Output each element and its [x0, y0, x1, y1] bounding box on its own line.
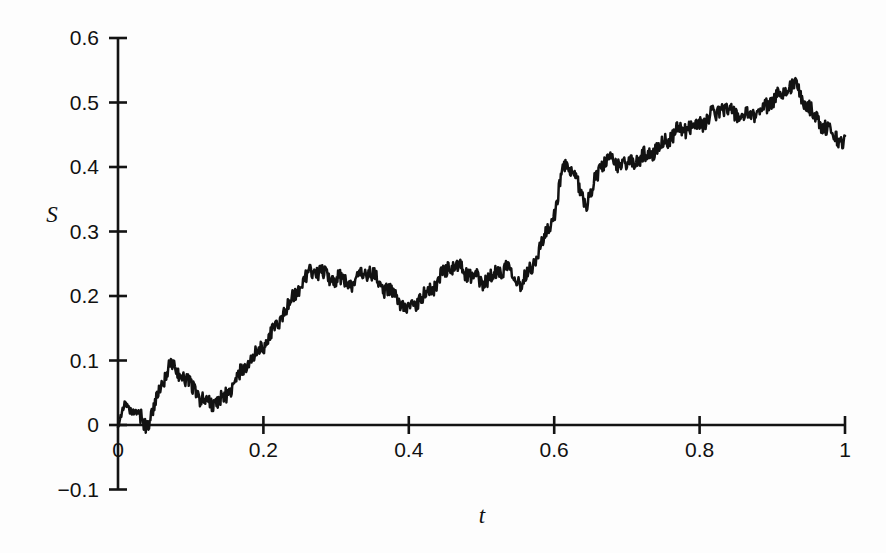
random-walk-chart: −0.100.10.20.30.40.50.6 00.20.40.60.81 S…: [0, 0, 886, 553]
x-tick-label: 0.8: [685, 438, 714, 461]
y-tick-label: 0: [87, 413, 99, 436]
data-series-group: [118, 78, 845, 433]
figure-container: −0.100.10.20.30.40.50.6 00.20.40.60.81 S…: [0, 0, 886, 553]
data-line-s: [118, 78, 845, 433]
x-axis: 00.20.40.60.81: [112, 416, 851, 461]
y-tick-label: 0.5: [70, 91, 99, 114]
y-axis: −0.100.10.20.30.40.50.6: [58, 26, 127, 501]
y-tick-label: 0.6: [70, 26, 99, 49]
y-tick-label: −0.1: [58, 478, 99, 501]
y-tick-label: 0.2: [70, 284, 99, 307]
x-tick-label: 0.6: [540, 438, 569, 461]
x-tick-label: 0.4: [394, 438, 424, 461]
y-axis-title: S: [46, 202, 58, 227]
y-tick-label: 0.3: [70, 220, 99, 243]
x-axis-title: t: [479, 503, 486, 528]
x-tick-label: 0.2: [249, 438, 278, 461]
y-tick-label: 0.1: [70, 349, 99, 372]
x-tick-label: 1: [839, 438, 851, 461]
x-tick-label: 0: [112, 438, 124, 461]
y-tick-label: 0.4: [70, 155, 100, 178]
